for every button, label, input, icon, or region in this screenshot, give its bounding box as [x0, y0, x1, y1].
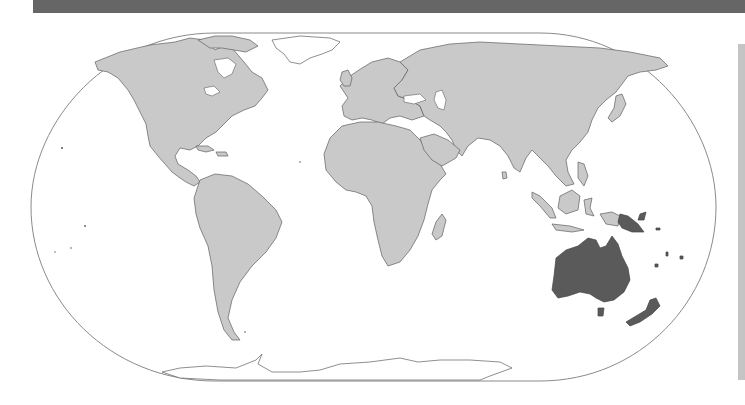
- land-sri-lanka: [502, 172, 507, 179]
- island-marquesas: [84, 225, 86, 227]
- island-cook: [54, 251, 55, 252]
- island-cape-verde: [299, 161, 301, 163]
- land-tasmania: [598, 308, 604, 316]
- land-new-caledonia: [655, 264, 658, 267]
- land-solomon-islands: [656, 228, 660, 230]
- island-hawaii: [61, 147, 63, 149]
- land-vanuatu: [666, 252, 668, 256]
- land-fiji: [680, 256, 683, 259]
- island-tahiti: [70, 247, 72, 249]
- side-panel: [738, 44, 745, 380]
- world-locator-map: [0, 0, 745, 405]
- land-hispaniola: [216, 152, 228, 156]
- island-falklands: [244, 331, 246, 333]
